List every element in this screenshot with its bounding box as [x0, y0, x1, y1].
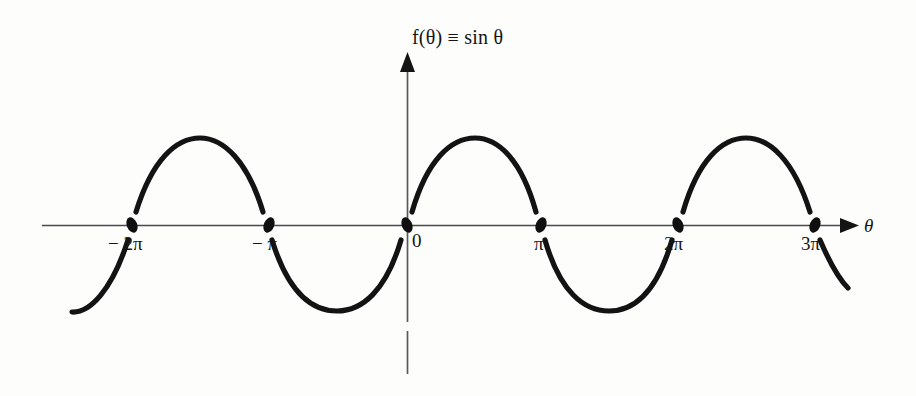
sine-arc-4 — [545, 240, 672, 311]
tick-label-zero: 0 — [412, 231, 422, 250]
tick-label-3pi: 3π — [801, 234, 820, 253]
sine-arc-3 — [412, 138, 536, 212]
sine-arc-right-tail — [820, 240, 848, 288]
sine-arc-2 — [272, 240, 401, 311]
tick-label-minus-pi: − π — [252, 234, 277, 253]
tick-label-2pi: 2π — [664, 234, 683, 253]
tick-label-minus-2pi: − 2π — [108, 234, 143, 253]
x-axis-label-theta: θ — [864, 216, 873, 235]
x-axis-arrowhead — [840, 218, 859, 233]
sine-function-figure: f(θ) ≡ sin θ θ − 2π − π 0 π 2π 3π — [0, 0, 916, 396]
y-axis-arrowhead — [400, 52, 415, 72]
sine-arc-5 — [683, 138, 810, 212]
plot-canvas — [0, 0, 916, 396]
x-axis-group — [42, 218, 859, 233]
tick-label-pi: π — [534, 234, 544, 253]
sine-arc-1 — [136, 138, 263, 212]
function-title: f(θ) ≡ sin θ — [412, 27, 503, 47]
